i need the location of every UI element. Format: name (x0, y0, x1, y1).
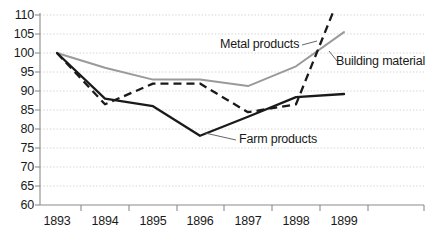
y-tick-label: 75 (0, 142, 34, 154)
y-tick-label: 80 (0, 123, 34, 135)
x-tick-label: 1898 (272, 215, 320, 227)
y-tick-label: 105 (0, 28, 34, 40)
y-tick-label: 60 (0, 199, 34, 211)
y-tick-label: 65 (0, 180, 34, 192)
leader-farm-products (205, 133, 236, 140)
series-label-metal-products: Metal products (220, 38, 299, 51)
chart-plot-area (0, 0, 433, 236)
x-tick-label: 1895 (129, 215, 177, 227)
x-tick-label: 1894 (81, 215, 129, 227)
x-tick-label: 1893 (33, 215, 81, 227)
x-tick-label: 1899 (320, 215, 368, 227)
leader-metal-products (302, 41, 317, 45)
y-tick-label: 110 (0, 9, 34, 21)
series-line-building-material (57, 32, 344, 86)
series-label-farm-products: Farm products (239, 133, 317, 146)
y-tick-label: 85 (0, 104, 34, 116)
x-tick-label: 1896 (176, 215, 224, 227)
y-tick-label: 90 (0, 85, 34, 97)
series-label-building-material: Building material (336, 55, 425, 68)
y-tick-label: 95 (0, 66, 34, 78)
x-tick-marks (81, 205, 424, 211)
y-tick-label: 70 (0, 161, 34, 173)
line-chart: 110 105 100 95 90 85 80 75 70 65 60 1893… (0, 0, 433, 236)
y-tick-label: 100 (0, 47, 34, 59)
x-tick-label: 1897 (224, 215, 272, 227)
y-tick-marks (35, 15, 40, 205)
